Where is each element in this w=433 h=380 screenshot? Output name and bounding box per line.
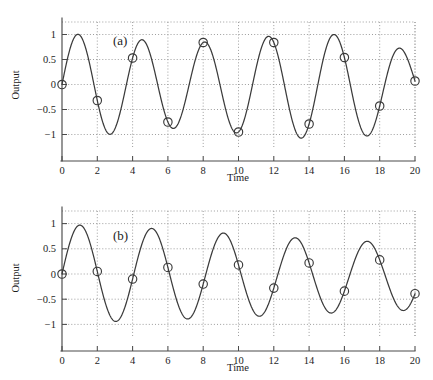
chart-panel-b: 02468101214161820−1−0.500.51 (b) Time Ou… bbox=[0, 190, 433, 380]
y-tick-label: −0.5 bbox=[37, 104, 56, 115]
y-tick-label: −0.5 bbox=[37, 294, 56, 305]
y-tick-label: −1 bbox=[45, 129, 56, 140]
x-tick-label: 2 bbox=[95, 165, 100, 176]
plot-b: 02468101214161820−1−0.500.51 (b) Time Ou… bbox=[0, 190, 433, 380]
y-tick-label: 1 bbox=[51, 29, 56, 40]
y-tick-label: 0 bbox=[51, 269, 56, 280]
y-tick-label: 0 bbox=[51, 79, 56, 90]
x-axis-title-a: Time bbox=[227, 172, 249, 183]
x-tick-label: 8 bbox=[201, 355, 206, 366]
tick-labels-b: 02468101214161820−1−0.500.51 bbox=[37, 218, 420, 366]
tick-labels-a: 02468101214161820−1−0.500.51 bbox=[37, 29, 420, 176]
x-tick-label: 0 bbox=[59, 165, 64, 176]
y-tick-label: 1 bbox=[51, 218, 56, 229]
x-tick-label: 0 bbox=[59, 355, 64, 366]
x-tick-label: 18 bbox=[374, 355, 385, 366]
x-tick-label: 12 bbox=[269, 165, 280, 176]
x-tick-label: 4 bbox=[130, 165, 136, 176]
x-tick-label: 14 bbox=[304, 355, 315, 366]
y-axis-title-b: Output bbox=[10, 263, 21, 292]
x-tick-label: 20 bbox=[410, 355, 421, 366]
figure-container: 02468101214161820−1−0.500.51 (a) Time Ou… bbox=[0, 0, 433, 380]
panel-label-a: (a) bbox=[113, 33, 127, 48]
y-tick-label: 0.5 bbox=[43, 54, 56, 65]
x-tick-label: 6 bbox=[165, 165, 170, 176]
x-axis-title-b: Time bbox=[227, 362, 249, 373]
x-tick-label: 18 bbox=[374, 165, 385, 176]
x-tick-label: 16 bbox=[339, 165, 350, 176]
x-tick-label: 12 bbox=[269, 355, 280, 366]
y-tick-label: 0.5 bbox=[43, 243, 56, 254]
plot-a: 02468101214161820−1−0.500.51 (a) Time Ou… bbox=[0, 0, 433, 190]
x-tick-label: 20 bbox=[410, 165, 421, 176]
y-tick-label: −1 bbox=[45, 319, 56, 330]
chart-panel-a: 02468101214161820−1−0.500.51 (a) Time Ou… bbox=[0, 0, 433, 190]
x-tick-label: 4 bbox=[130, 355, 136, 366]
x-tick-label: 2 bbox=[95, 355, 100, 366]
x-tick-label: 14 bbox=[304, 165, 315, 176]
panel-label-b: (b) bbox=[113, 228, 128, 243]
x-tick-label: 16 bbox=[339, 355, 350, 366]
x-tick-label: 6 bbox=[165, 355, 170, 366]
x-tick-label: 8 bbox=[201, 165, 206, 176]
y-axis-title-a: Output bbox=[10, 70, 21, 99]
